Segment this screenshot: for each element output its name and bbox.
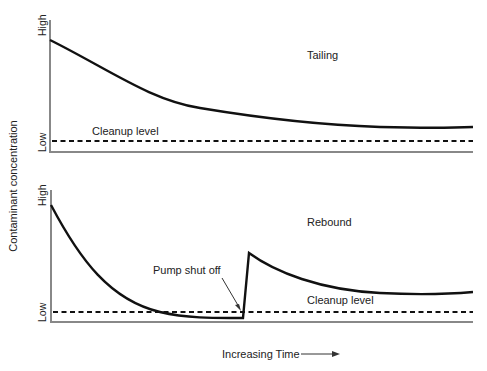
x-axis-label: Increasing Time xyxy=(222,348,300,360)
tailing-panel: High Low Cleanup level Tailing xyxy=(36,14,473,152)
top-panel-title: Tailing xyxy=(307,49,338,61)
top-y-low: Low xyxy=(36,132,48,152)
bottom-y-high: High xyxy=(36,184,48,206)
pump-shut-off-arrow xyxy=(222,278,239,307)
bottom-cleanup-label: Cleanup level xyxy=(307,294,374,306)
figure: Contaminant concentration High Low Clean… xyxy=(0,0,487,371)
tailing-curve xyxy=(50,40,473,128)
rebound-curve xyxy=(51,205,473,318)
top-y-high: High xyxy=(36,14,48,36)
pump-shut-off-label: Pump shut off xyxy=(153,264,222,276)
rebound-panel: High Low Cleanup level Rebound Pump shut… xyxy=(36,184,473,322)
bottom-panel-title: Rebound xyxy=(307,216,352,228)
top-cleanup-label: Cleanup level xyxy=(92,125,159,137)
pump-shut-off-arrowhead xyxy=(235,304,241,311)
bottom-y-low: Low xyxy=(36,302,48,322)
time-arrowhead-icon xyxy=(332,351,340,357)
y-axis-label: Contaminant concentration xyxy=(7,120,19,251)
